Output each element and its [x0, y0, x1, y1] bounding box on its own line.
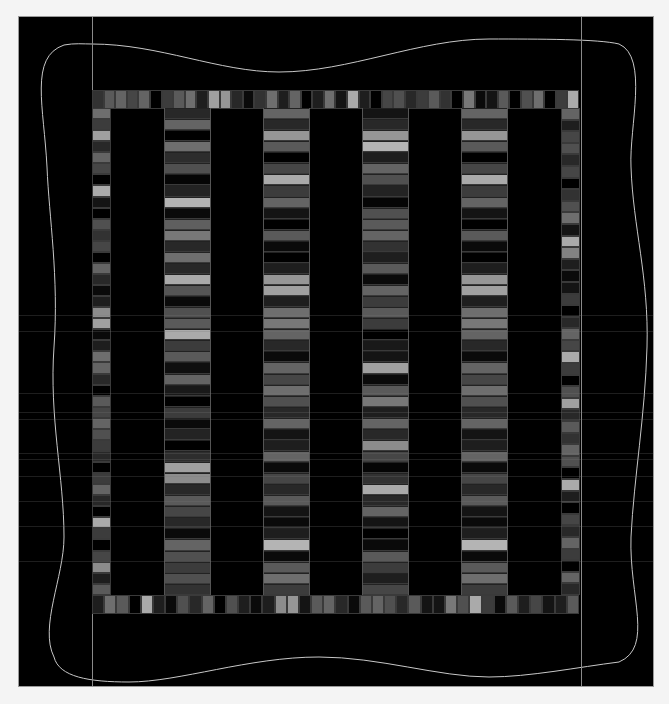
- patch: [116, 595, 128, 614]
- patch: [264, 484, 309, 495]
- patch: [92, 219, 111, 230]
- patch: [129, 595, 141, 614]
- patch: [141, 595, 153, 614]
- patch: [363, 219, 408, 230]
- patch: [165, 296, 210, 307]
- patch: [92, 506, 111, 517]
- patch: [264, 152, 309, 163]
- patch: [561, 166, 580, 178]
- patch: [92, 130, 111, 141]
- patch: [264, 506, 309, 517]
- patch: [264, 396, 309, 407]
- patch: [462, 462, 507, 473]
- patch: [264, 141, 309, 152]
- patch: [92, 119, 111, 130]
- patch: [262, 595, 274, 614]
- patch: [363, 252, 408, 263]
- patch: [165, 351, 210, 362]
- patch: [275, 595, 287, 614]
- patch: [561, 433, 580, 445]
- patch: [363, 263, 408, 274]
- patch: [509, 90, 521, 109]
- patch: [165, 539, 210, 550]
- patch: [363, 584, 408, 595]
- streak-line: [19, 393, 653, 394]
- patch: [561, 444, 580, 456]
- patch: [561, 317, 580, 329]
- patch: [363, 573, 408, 584]
- patch: [264, 318, 309, 329]
- patch: [165, 197, 210, 208]
- patch: [264, 462, 309, 473]
- patch: [264, 130, 309, 141]
- patch: [165, 528, 210, 539]
- patch: [165, 573, 210, 584]
- patch: [363, 108, 408, 119]
- patch: [544, 90, 556, 109]
- patch: [462, 285, 507, 296]
- patch: [165, 429, 210, 440]
- patch: [165, 274, 210, 285]
- patch: [177, 595, 189, 614]
- patch: [264, 163, 309, 174]
- patch: [347, 90, 359, 109]
- patch: [266, 90, 278, 109]
- patch: [561, 583, 580, 595]
- patch: [92, 573, 111, 584]
- patch: [92, 351, 111, 362]
- patch: [561, 282, 580, 294]
- patch: [264, 473, 309, 484]
- guide-line-right: [581, 17, 582, 686]
- patch: [561, 572, 580, 584]
- patch: [324, 90, 336, 109]
- patch: [92, 340, 111, 351]
- patch: [363, 506, 408, 517]
- patch: [561, 108, 580, 120]
- patch: [542, 595, 554, 614]
- patch: [165, 374, 210, 385]
- patch: [462, 340, 507, 351]
- patch: [363, 440, 408, 451]
- patch: [208, 90, 220, 109]
- patch: [462, 219, 507, 230]
- patch: [348, 595, 360, 614]
- patch: [264, 252, 309, 263]
- streak-line: [19, 476, 653, 477]
- patch: [462, 562, 507, 573]
- patch: [264, 539, 309, 550]
- patch: [363, 163, 408, 174]
- patch: [462, 108, 507, 119]
- patch: [238, 595, 250, 614]
- border-left-strip: [92, 108, 111, 595]
- patch: [92, 595, 104, 614]
- patch: [264, 528, 309, 539]
- patch: [287, 595, 299, 614]
- patch: [462, 130, 507, 141]
- patch: [165, 562, 210, 573]
- patch: [323, 595, 335, 614]
- stripe-column-1: [164, 108, 211, 595]
- patch: [561, 178, 580, 190]
- patch: [92, 241, 111, 252]
- patch: [417, 90, 429, 109]
- patch: [165, 340, 210, 351]
- patch: [150, 90, 162, 109]
- patch: [165, 584, 210, 595]
- patch: [363, 562, 408, 573]
- patch: [92, 141, 111, 152]
- patch: [370, 90, 382, 109]
- patch: [462, 539, 507, 550]
- patch: [363, 197, 408, 208]
- patch: [506, 595, 518, 614]
- patch: [92, 473, 111, 484]
- patch: [264, 263, 309, 274]
- patch: [162, 90, 174, 109]
- patch: [396, 595, 408, 614]
- patch: [165, 551, 210, 562]
- quilt-canvas: [18, 16, 654, 687]
- patch: [462, 163, 507, 174]
- patch: [363, 274, 408, 285]
- patch: [462, 230, 507, 241]
- patch: [462, 185, 507, 196]
- patch: [462, 362, 507, 373]
